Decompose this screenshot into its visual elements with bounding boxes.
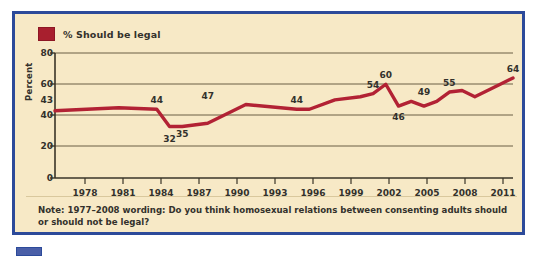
data-label-47-1989: 47	[201, 91, 214, 101]
note-divider	[26, 196, 517, 197]
data-label-60-2003: 60	[380, 70, 393, 80]
line-chart-svg: 4432354744546046495564	[15, 14, 522, 232]
data-label-44-1985: 44	[151, 95, 164, 105]
data-label-54-2002: 54	[367, 80, 380, 90]
screenshot-root: % Should be legal Percent 80 60 43 40 20…	[0, 0, 537, 259]
data-label-35-1987: 35	[176, 129, 189, 139]
data-label-55-2008: 55	[443, 78, 456, 88]
bottom-blue-marker	[16, 247, 42, 256]
data-label-46-2004: 46	[392, 112, 405, 122]
data-label-64-2013: 64	[507, 64, 520, 74]
gridlines	[55, 53, 513, 146]
chart-note: Note: 1977–2008 wording: Do you think ho…	[38, 204, 508, 229]
data-label-44-1996: 44	[290, 95, 303, 105]
data-label-32-1986: 32	[163, 134, 176, 144]
plot-area-wrapper: Percent 80 60 43 40 20 0 1978 1981 1984 …	[15, 14, 522, 232]
data-label-49-2006: 49	[418, 87, 431, 97]
data-point-labels: 4432354744546046495564	[151, 64, 520, 144]
chart-card: % Should be legal Percent 80 60 43 40 20…	[12, 11, 525, 235]
y-axis-line	[50, 53, 55, 178]
x-axis-line	[55, 178, 513, 184]
